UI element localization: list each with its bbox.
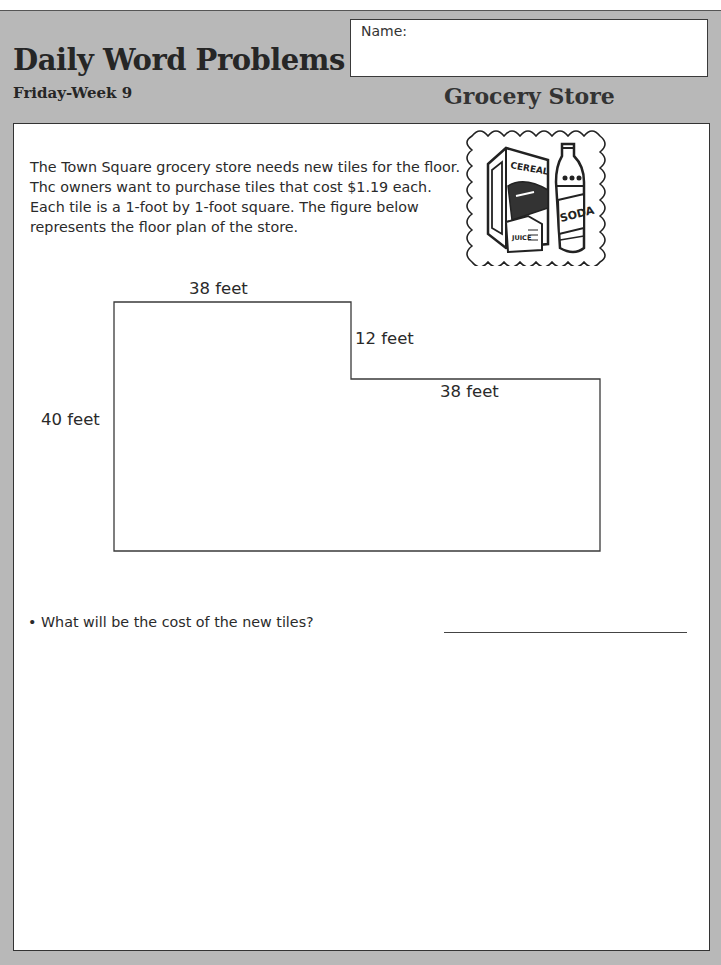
worksheet-title: Daily Word Problems [13, 43, 345, 77]
floor-plan-diagram: 38 feet 12 feet 38 feet 40 feet [14, 274, 709, 564]
question-text: • What will be the cost of the new tiles… [28, 614, 314, 630]
floor-plan-shape [14, 274, 709, 564]
cereal-box-and-soda-bottle-icon: CEREAL JUICE SODA [462, 124, 612, 266]
lower-right-width-label: 38 feet [440, 382, 499, 401]
left-height-label: 40 feet [41, 410, 100, 429]
problem-text: The Town Square grocery store needs new … [30, 157, 470, 237]
name-field[interactable]: Name: [350, 19, 708, 77]
grocery-clipart: CEREAL JUICE SODA [462, 124, 612, 266]
problem-panel: The Town Square grocery store needs new … [13, 123, 710, 951]
name-label: Name: [361, 23, 407, 39]
topic-heading: Grocery Store [444, 83, 615, 109]
answer-line[interactable] [444, 632, 687, 633]
step-height-label: 12 feet [355, 329, 414, 348]
worksheet: Daily Word Problems Friday-Week 9 Name: … [0, 10, 721, 965]
worksheet-subtitle: Friday-Week 9 [13, 84, 132, 102]
top-width-label: 38 feet [189, 279, 248, 298]
